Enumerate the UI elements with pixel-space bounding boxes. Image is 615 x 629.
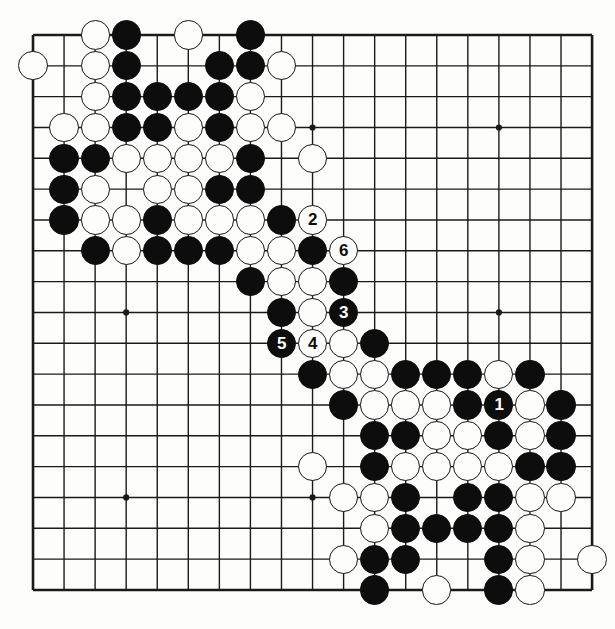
white-stone[interactable] <box>329 360 358 389</box>
white-stone[interactable] <box>329 545 358 574</box>
black-stone[interactable] <box>81 236 110 265</box>
black-stone[interactable] <box>236 20 265 49</box>
white-stone[interactable] <box>298 267 327 296</box>
black-stone[interactable] <box>205 236 234 265</box>
white-stone[interactable] <box>422 575 451 604</box>
black-stone[interactable] <box>484 575 513 604</box>
white-stone[interactable] <box>515 390 544 419</box>
black-stone[interactable] <box>112 20 141 49</box>
white-stone[interactable] <box>360 514 389 543</box>
black-stone[interactable] <box>236 267 265 296</box>
white-stone[interactable] <box>112 205 141 234</box>
white-stone[interactable] <box>81 175 110 204</box>
move-stone-4[interactable]: 4 <box>298 329 327 358</box>
white-stone[interactable] <box>515 545 544 574</box>
white-stone[interactable] <box>329 329 358 358</box>
white-stone[interactable] <box>453 452 482 481</box>
white-stone[interactable] <box>112 236 141 265</box>
black-stone[interactable] <box>174 82 203 111</box>
black-stone[interactable] <box>236 144 265 173</box>
white-stone[interactable] <box>81 205 110 234</box>
white-stone[interactable] <box>422 390 451 419</box>
white-stone[interactable] <box>236 113 265 142</box>
black-stone[interactable] <box>484 545 513 574</box>
black-stone[interactable] <box>112 51 141 80</box>
black-stone[interactable] <box>143 205 172 234</box>
black-stone[interactable] <box>236 51 265 80</box>
white-stone[interactable] <box>174 175 203 204</box>
black-stone[interactable] <box>484 514 513 543</box>
white-stone[interactable] <box>81 113 110 142</box>
black-stone[interactable] <box>49 175 78 204</box>
white-stone[interactable] <box>298 298 327 327</box>
white-stone[interactable] <box>174 144 203 173</box>
white-stone[interactable] <box>143 175 172 204</box>
white-stone[interactable] <box>267 51 296 80</box>
black-stone[interactable] <box>546 390 575 419</box>
black-stone[interactable] <box>391 360 420 389</box>
black-stone[interactable] <box>205 82 234 111</box>
white-stone[interactable] <box>205 144 234 173</box>
white-stone[interactable] <box>453 421 482 450</box>
black-stone[interactable] <box>515 360 544 389</box>
move-stone-1[interactable]: 1 <box>484 390 513 419</box>
move-stone-6[interactable]: 6 <box>329 236 358 265</box>
white-stone[interactable] <box>267 267 296 296</box>
black-stone[interactable] <box>422 360 451 389</box>
black-stone[interactable] <box>360 575 389 604</box>
black-stone[interactable] <box>546 421 575 450</box>
black-stone[interactable] <box>391 514 420 543</box>
black-stone[interactable] <box>236 175 265 204</box>
white-stone[interactable] <box>267 236 296 265</box>
black-stone[interactable] <box>546 452 575 481</box>
black-stone[interactable] <box>453 360 482 389</box>
black-stone[interactable] <box>205 113 234 142</box>
white-stone[interactable] <box>515 483 544 512</box>
move-stone-2[interactable]: 2 <box>298 205 327 234</box>
move-stone-3[interactable]: 3 <box>329 298 358 327</box>
black-stone[interactable] <box>484 483 513 512</box>
black-stone[interactable] <box>329 267 358 296</box>
black-stone[interactable] <box>360 329 389 358</box>
black-stone[interactable] <box>391 421 420 450</box>
black-stone[interactable] <box>112 113 141 142</box>
white-stone[interactable] <box>174 20 203 49</box>
white-stone[interactable] <box>236 82 265 111</box>
white-stone[interactable] <box>515 421 544 450</box>
black-stone[interactable] <box>267 205 296 234</box>
white-stone[interactable] <box>174 113 203 142</box>
white-stone[interactable] <box>422 452 451 481</box>
white-stone[interactable] <box>515 514 544 543</box>
black-stone[interactable] <box>205 51 234 80</box>
white-stone[interactable] <box>422 421 451 450</box>
white-stone[interactable] <box>484 360 513 389</box>
black-stone[interactable] <box>143 113 172 142</box>
white-stone[interactable] <box>205 205 234 234</box>
black-stone[interactable] <box>267 298 296 327</box>
black-stone[interactable] <box>391 545 420 574</box>
black-stone[interactable] <box>484 421 513 450</box>
black-stone[interactable] <box>112 82 141 111</box>
white-stone[interactable] <box>360 360 389 389</box>
black-stone[interactable] <box>205 175 234 204</box>
white-stone[interactable] <box>515 575 544 604</box>
white-stone[interactable] <box>360 483 389 512</box>
black-stone[interactable] <box>298 360 327 389</box>
black-stone[interactable] <box>49 144 78 173</box>
black-stone[interactable] <box>143 236 172 265</box>
black-stone[interactable] <box>174 236 203 265</box>
black-stone[interactable] <box>453 483 482 512</box>
black-stone[interactable] <box>49 205 78 234</box>
white-stone[interactable] <box>81 82 110 111</box>
white-stone[interactable] <box>112 144 141 173</box>
white-stone[interactable] <box>81 51 110 80</box>
black-stone[interactable] <box>515 452 544 481</box>
white-stone[interactable] <box>174 205 203 234</box>
black-stone[interactable] <box>360 452 389 481</box>
white-stone[interactable] <box>298 452 327 481</box>
white-stone[interactable] <box>267 113 296 142</box>
white-stone[interactable] <box>236 205 265 234</box>
black-stone[interactable] <box>143 82 172 111</box>
white-stone[interactable] <box>49 113 78 142</box>
white-stone[interactable] <box>143 144 172 173</box>
